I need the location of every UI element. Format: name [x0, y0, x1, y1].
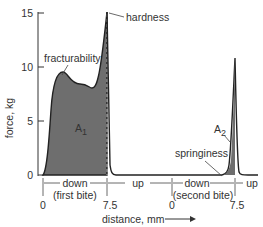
up2-label: up: [246, 177, 258, 189]
hardness-leader: [109, 13, 124, 17]
bite1-label: (first bite): [53, 189, 97, 201]
y-tick-label-10: 10: [21, 61, 33, 73]
hardness-label: hardness: [126, 11, 169, 23]
y-tick-label-5: 5: [27, 115, 33, 127]
x-tick-75a: 7.5: [103, 199, 118, 211]
x-arrow-icon: [190, 216, 196, 222]
x-tick-0b: 0: [169, 199, 175, 211]
x-axis-label: distance, mm: [102, 213, 165, 225]
first-bite-area: [43, 12, 107, 175]
springiness-leader: [205, 161, 222, 176]
springiness-label: springiness: [175, 147, 228, 159]
x-tick-0a: 0: [40, 199, 46, 211]
x-tick-75b: 7.5: [230, 199, 245, 211]
y-axis-label: force, kg: [3, 98, 15, 138]
fracturability-label: fracturability: [44, 52, 101, 64]
tpa-chart: 15 10 5 0 force, kg hardness fracturabil…: [0, 0, 263, 227]
down1-label: down: [62, 177, 87, 189]
y-tick-label-15: 15: [21, 7, 33, 19]
bite2-label: (second bite): [173, 189, 234, 201]
y-tick-label-0: 0: [27, 169, 33, 181]
up1-label: up: [132, 177, 144, 189]
down2-label: down: [184, 177, 209, 189]
area2-leader: [224, 135, 230, 142]
